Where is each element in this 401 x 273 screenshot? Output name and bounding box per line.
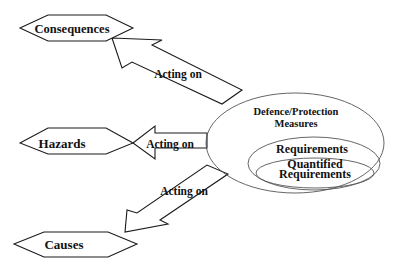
arrow-label-causes: Acting on [160,185,208,198]
node-causes: Causes [14,232,137,257]
measures-group: Defence/Protection Measures Requirements… [206,93,384,193]
measures-title-line1: Defence/Protection [254,106,339,117]
node-label-consequences: Consequences [34,22,109,36]
arrow-label-consequences: Acting on [154,68,202,81]
arrow-to-consequences: Acting on [112,38,242,104]
node-consequences: Consequences [20,15,133,41]
arrow-label-hazards: Acting on [146,138,194,151]
diagram-canvas: Acting on Acting on Acting on Consequenc… [0,0,401,273]
quantified-label-line2: Requirements [279,167,351,181]
node-label-causes: Causes [44,237,83,252]
arrow-to-hazards: Acting on [133,126,207,159]
arrow-to-causes: Acting on [125,165,228,232]
node-label-hazards: Hazards [39,136,86,151]
node-hazards: Hazards [20,128,133,154]
measures-title-line2: Measures [275,118,318,129]
requirements-label: Requirements [276,142,348,156]
